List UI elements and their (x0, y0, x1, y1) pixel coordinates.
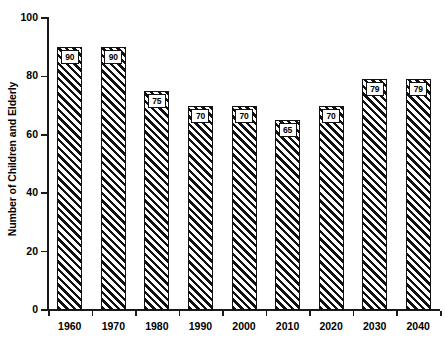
x-tick-mark (396, 311, 398, 316)
bar-value-label: 90 (104, 50, 122, 64)
bar (275, 120, 300, 310)
y-tick-label-wrap: 20 (0, 246, 38, 257)
bar (188, 106, 213, 310)
x-tick-mark (48, 311, 50, 316)
bar-value-label: 70 (191, 109, 209, 123)
y-tick-label-wrap: 80 (0, 70, 38, 81)
y-tick-label: 60 (4, 129, 38, 140)
x-tick-mark (309, 311, 311, 316)
y-tick-mark (41, 17, 47, 19)
y-axis-title: Number of Children and Elderly (3, 4, 21, 314)
y-tick-label: 0 (4, 304, 38, 315)
y-tick-mark (41, 309, 47, 311)
y-tick-mark (41, 76, 47, 78)
x-tick-mark (135, 311, 137, 316)
x-tick-mark (266, 311, 268, 316)
x-tick-mark (353, 311, 355, 316)
bar-value-label: 65 (279, 123, 297, 137)
y-tick-mark (41, 192, 47, 194)
y-tick-label: 20 (4, 246, 38, 257)
x-tick-mark (179, 311, 181, 316)
y-tick-label-wrap: 0 (0, 304, 38, 315)
bar-value-label: 90 (61, 50, 79, 64)
x-tick-mark (92, 311, 94, 316)
bar-value-label: 70 (235, 109, 253, 123)
y-tick-label: 40 (4, 187, 38, 198)
y-tick-label: 100 (4, 12, 38, 23)
bar-value-label: 79 (366, 82, 384, 96)
bar (57, 47, 82, 310)
bar-chart: Number of Children and Elderly 020406080… (0, 0, 445, 354)
plot-area: 909075707065707979 (48, 18, 440, 310)
y-tick-label-wrap: 60 (0, 129, 38, 140)
bar-value-label: 79 (409, 82, 427, 96)
bar (362, 79, 387, 310)
bar (406, 79, 431, 310)
bar-value-label: 70 (322, 109, 340, 123)
bar (101, 47, 126, 310)
x-tick-label: 2040 (388, 320, 445, 332)
y-tick-label-wrap: 40 (0, 187, 38, 198)
x-tick-mark (222, 311, 224, 316)
y-tick-mark (41, 251, 47, 253)
y-tick-label-wrap: 100 (0, 12, 38, 23)
bar (232, 106, 257, 310)
x-tick-mark (440, 311, 442, 316)
y-tick-mark (41, 134, 47, 136)
bar (144, 91, 169, 310)
y-tick-label: 80 (4, 70, 38, 81)
bar-value-label: 75 (148, 94, 166, 108)
bar (319, 106, 344, 310)
